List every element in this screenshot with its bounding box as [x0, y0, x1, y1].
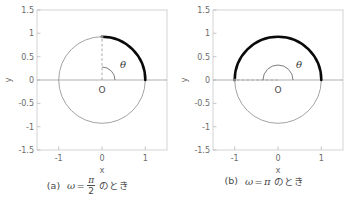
- x-tick-label: 1: [319, 154, 324, 163]
- caption-suffix-a: のとき: [99, 181, 129, 191]
- x-tick-label: 0: [99, 154, 104, 163]
- y-tick-label: -1: [26, 123, 34, 132]
- x-tick-labels-a: -1 0 1: [55, 154, 148, 163]
- y-tick-labels-b: 1.5 1 0.5 0 -0.5 -1 -1.5: [194, 6, 210, 155]
- y-tick-label: 1.5: [21, 6, 34, 15]
- y-axis-label-b: y: [179, 77, 189, 82]
- y-axis-label-a: y: [3, 77, 13, 82]
- theta-label-b: θ: [296, 59, 302, 70]
- y-tick-label: 0: [29, 76, 34, 85]
- caption-equals-a: =: [77, 181, 85, 191]
- y-tick-label: 1: [29, 29, 34, 38]
- endpoint-marker-b: [233, 79, 236, 82]
- x-tick-label: -1: [231, 154, 239, 163]
- y-tick-label: 1: [205, 29, 210, 38]
- y-tick-label: -1.5: [194, 146, 210, 155]
- y-tick-label: 0: [205, 76, 210, 85]
- x-tick-label: 0: [275, 154, 280, 163]
- y-tick-label: 0.5: [21, 53, 34, 62]
- x-tick-labels-b: -1 0 1: [231, 154, 324, 163]
- x-tick-label: 1: [143, 154, 148, 163]
- caption-a: (a) ω = π 2 のとき: [0, 176, 176, 196]
- y-tick-label: -0.5: [18, 99, 34, 108]
- caption-omega-a: ω: [67, 181, 75, 191]
- caption-b: (b) ω = π のとき: [176, 176, 352, 187]
- y-tick-label: -1: [202, 123, 210, 132]
- endpoint-marker-a: [101, 35, 104, 38]
- caption-suffix-b: のとき: [274, 177, 304, 187]
- caption-fraction-a: π 2: [87, 176, 95, 196]
- x-axis-label-a: x: [99, 165, 104, 175]
- plot-b: θ O 1.5 1 0.5 0 -0.5 -1 -1.5 -1 0 1 x y: [176, 0, 352, 176]
- caption-value-b: π: [264, 177, 271, 187]
- fraction-numerator-a: π: [87, 176, 95, 186]
- caption-equals-b: =: [255, 177, 263, 187]
- plot-a: θ O 1.5 1 0.5 0 -0.5 -1 -1.5 -1 0 1 x: [0, 0, 176, 176]
- caption-tag-b: (b): [224, 175, 237, 186]
- caption-omega-b: ω: [245, 177, 253, 187]
- theta-label-a: θ: [120, 59, 126, 70]
- caption-tag-a: (a): [47, 180, 60, 191]
- fraction-denominator-a: 2: [87, 186, 95, 196]
- y-tick-labels-a: 1.5 1 0.5 0 -0.5 -1 -1.5: [18, 6, 34, 155]
- y-tick-label: 1.5: [197, 6, 210, 15]
- origin-label-a: O: [99, 85, 106, 95]
- y-tick-label: 0.5: [197, 53, 210, 62]
- panel-b: θ O 1.5 1 0.5 0 -0.5 -1 -1.5 -1 0 1 x y …: [176, 0, 352, 205]
- panel-a: θ O 1.5 1 0.5 0 -0.5 -1 -1.5 -1 0 1 x: [0, 0, 176, 205]
- figure-root: θ O 1.5 1 0.5 0 -0.5 -1 -1.5 -1 0 1 x: [0, 0, 352, 205]
- x-tick-label: -1: [55, 154, 63, 163]
- origin-label-b: O: [275, 85, 282, 95]
- x-axis-label-b: x: [275, 165, 280, 175]
- y-tick-label: -0.5: [194, 99, 210, 108]
- y-tick-label: -1.5: [18, 146, 34, 155]
